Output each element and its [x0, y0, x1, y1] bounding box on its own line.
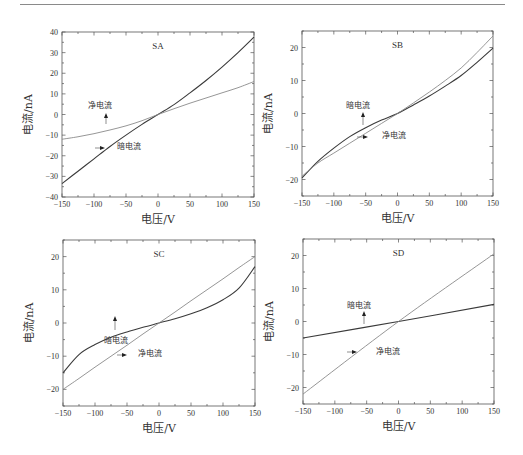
- y-tick-label: 0: [54, 111, 58, 120]
- y-tick-label: 10: [51, 286, 59, 295]
- x-tick-label: 100: [217, 409, 229, 418]
- x-tick-label: 0: [397, 407, 401, 416]
- chart-panel-sb: −150−100−50050100150−20−1001020电压/V电流/nA…: [261, 31, 499, 225]
- y-tick-label: −20: [285, 176, 298, 185]
- annotation-label: 暗电流: [117, 141, 141, 151]
- annotation-label: 暗电流: [346, 100, 370, 110]
- x-tick-label: 100: [216, 200, 228, 209]
- annotation-label: 暗电流: [347, 300, 371, 310]
- annotation-label: 暗电流: [104, 335, 128, 345]
- x-axis-title: 电压/V: [382, 420, 417, 433]
- annotation-arrow-head-icon: [104, 113, 108, 118]
- y-tick-label: 0: [295, 318, 299, 327]
- annotation-label: 净电流: [138, 348, 162, 358]
- x-tick-label: 50: [425, 199, 433, 208]
- y-tick-label: 10: [291, 285, 299, 294]
- y-tick-label: −20: [45, 152, 58, 161]
- x-tick-label: 0: [396, 199, 400, 208]
- annotation-arrow-head-icon: [363, 135, 368, 139]
- annotation-arrow-head-icon: [100, 146, 105, 150]
- annotation-label: 净电流: [376, 346, 400, 356]
- x-tick-label: −150: [294, 199, 311, 208]
- series-line-net-current: [62, 82, 254, 140]
- annotation-arrow-head-icon: [122, 353, 127, 357]
- y-axis-title: 电流/nA: [261, 92, 275, 134]
- y-tick-label: 40: [50, 28, 58, 37]
- panel-title: SB: [392, 40, 403, 50]
- x-tick-label: 0: [156, 200, 160, 209]
- x-tick-label: −150: [55, 409, 72, 418]
- x-axis-title: 电压/V: [141, 213, 176, 226]
- chart-panel-sa: −150−100−50050100150−40−30−20−1001020304…: [21, 28, 260, 226]
- series-line-net-current: [302, 36, 493, 176]
- annotation-label: 净电流: [88, 100, 112, 110]
- y-tick-label: −10: [286, 351, 299, 360]
- y-tick-label: 20: [290, 44, 298, 53]
- y-tick-label: 30: [50, 49, 58, 58]
- x-tick-label: 50: [426, 407, 434, 416]
- annotation-arrow-head-icon: [361, 112, 365, 117]
- annotation-label: 净电流: [382, 130, 406, 140]
- x-tick-label: −100: [327, 407, 344, 416]
- panel-title: SA: [152, 41, 164, 51]
- x-tick-label: 100: [455, 199, 467, 208]
- panel-title: SC: [153, 249, 164, 259]
- y-tick-label: −20: [46, 385, 59, 394]
- y-axis-title: 电流/nA: [22, 302, 36, 344]
- x-tick-label: −50: [121, 409, 134, 418]
- x-tick-label: 100: [456, 407, 468, 416]
- y-tick-label: −10: [45, 131, 58, 140]
- y-tick-label: −10: [46, 352, 59, 361]
- y-tick-label: 20: [291, 252, 299, 261]
- x-tick-label: 50: [187, 409, 195, 418]
- x-tick-label: 150: [488, 407, 500, 416]
- x-tick-label: 150: [249, 409, 261, 418]
- y-tick-label: 0: [55, 319, 59, 328]
- y-tick-label: 0: [294, 110, 298, 119]
- x-tick-label: 0: [157, 409, 161, 418]
- x-tick-label: 150: [248, 200, 260, 209]
- x-axis-title: 电压/V: [381, 212, 416, 225]
- y-tick-label: 10: [290, 77, 298, 86]
- y-tick-label: −30: [45, 172, 58, 181]
- x-tick-label: −50: [360, 407, 373, 416]
- y-tick-label: −40: [45, 193, 58, 202]
- annotation-arrow-head-icon: [362, 311, 366, 316]
- chart-panel-sc: −150−100−50050100150−20−1001020电压/V电流/nA…: [22, 240, 261, 435]
- series-line-net-current: [303, 254, 494, 394]
- x-axis-title: 电压/V: [142, 422, 177, 435]
- x-tick-label: −150: [295, 407, 312, 416]
- y-tick-label: 20: [50, 69, 58, 78]
- y-tick-label: 10: [50, 90, 58, 99]
- y-tick-label: −10: [285, 143, 298, 152]
- x-tick-label: −50: [359, 199, 372, 208]
- x-tick-label: −50: [120, 200, 133, 209]
- iv-figure: −150−100−50050100150−40−30−20−1001020304…: [0, 0, 523, 455]
- series-line-dark-current: [62, 37, 254, 183]
- x-tick-label: −100: [326, 199, 343, 208]
- chart-panel-sd: −150−100−50050100150−20−1001020电压/V电流/nA…: [262, 239, 500, 433]
- y-axis-title: 电流/nA: [262, 300, 276, 342]
- x-tick-label: 50: [186, 200, 194, 209]
- panel-title: SD: [393, 248, 405, 258]
- y-tick-label: 20: [51, 253, 59, 262]
- x-tick-label: −100: [86, 200, 103, 209]
- x-tick-label: −100: [87, 409, 104, 418]
- y-tick-label: −20: [286, 384, 299, 393]
- annotation-arrow-head-icon: [113, 316, 117, 321]
- y-axis-title: 电流/nA: [21, 93, 35, 135]
- x-tick-label: 150: [487, 199, 499, 208]
